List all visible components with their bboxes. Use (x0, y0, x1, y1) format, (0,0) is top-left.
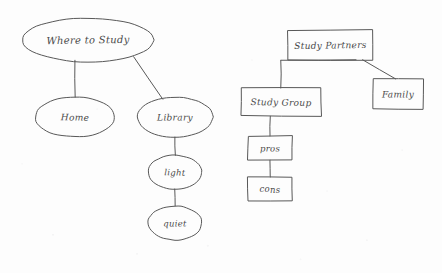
node-quiet[interactable]: quiet (148, 206, 202, 240)
node-pros[interactable]: pros (247, 136, 292, 161)
node-cons[interactable]: cons (247, 177, 292, 201)
node-study-group[interactable]: Study Group (241, 88, 322, 117)
nodes-layer: Where to StudyHomeLibrarylightquietStudy… (23, 18, 424, 240)
node-study-partners[interactable]: Study Partners (288, 30, 373, 61)
node-library[interactable]: Library (137, 97, 213, 137)
node-light[interactable]: light (148, 155, 201, 189)
node-label-study-group: Study Group (250, 97, 311, 108)
node-label-cons: cons (260, 184, 281, 194)
node-label-light: light (164, 167, 186, 177)
connector-study-partners-to-family (363, 60, 396, 79)
node-label-pros: pros (260, 143, 281, 153)
node-family[interactable]: Family (373, 79, 424, 110)
node-label-library: Library (156, 112, 193, 122)
node-where-to-study[interactable]: Where to Study (23, 18, 154, 62)
connector-where-to-study-to-library (134, 57, 163, 99)
node-home[interactable]: Home (36, 97, 115, 137)
node-label-home: Home (60, 112, 89, 122)
node-label-study-partners: Study Partners (294, 40, 367, 51)
node-label-family: Family (381, 89, 415, 99)
concept-map-page: Where to StudyHomeLibrarylightquietStudy… (0, 0, 442, 273)
node-label-quiet: quiet (163, 218, 187, 228)
concept-map-diagram: Where to StudyHomeLibrarylightquietStudy… (0, 0, 442, 273)
connectors-layer (75, 57, 396, 206)
connector-library-to-light (175, 137, 176, 155)
node-label-where-to-study: Where to Study (46, 34, 129, 46)
